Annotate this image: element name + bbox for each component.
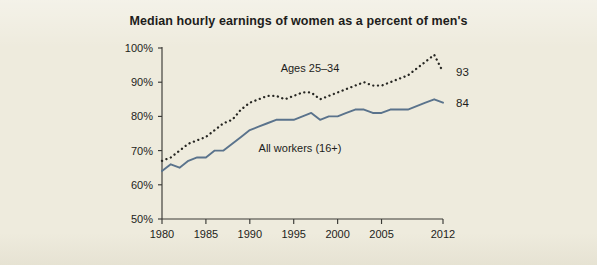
series-label-ages-25-34: Ages 25–34	[281, 62, 340, 74]
x-tick-label: 1985	[194, 228, 218, 240]
line-chart-plot: 50%60%70%80%90%100% 19801985199019952000…	[0, 0, 597, 265]
y-tick-label: 60%	[131, 179, 153, 191]
x-tick-label: 2005	[369, 228, 393, 240]
y-tick-label: 70%	[131, 145, 153, 157]
x-tick-label: 2000	[325, 228, 349, 240]
series-label-all-workers: All workers (16+)	[259, 142, 342, 154]
y-axis-ticks: 50%60%70%80%90%100%	[125, 42, 162, 225]
series-annotation-layer: 9384Ages 25–34All workers (16+)	[259, 62, 470, 154]
x-tick-label: 1990	[238, 228, 262, 240]
y-tick-label: 100%	[125, 42, 153, 54]
y-tick-label: 90%	[131, 76, 153, 88]
x-tick-label: 1980	[150, 228, 174, 240]
x-tick-label: 1995	[281, 228, 305, 240]
y-tick-label: 50%	[131, 213, 153, 225]
series-end-value-label: 93	[456, 66, 469, 78]
x-tick-label: 2012	[431, 228, 455, 240]
y-tick-label: 80%	[131, 110, 153, 122]
x-axis-ticks: 1980198519901995200020052012	[150, 219, 455, 240]
data-series-all-workers	[162, 99, 443, 171]
series-end-value-label: 84	[456, 97, 469, 109]
chart-figure: Median hourly earnings of women as a per…	[0, 0, 597, 265]
